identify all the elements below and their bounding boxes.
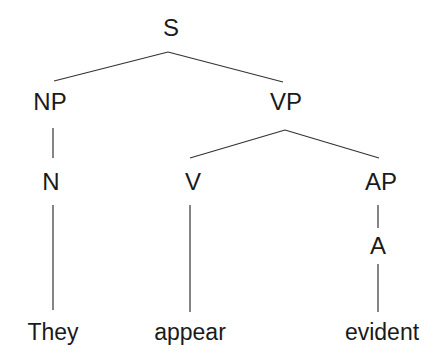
leaf-evident: evident xyxy=(345,321,419,344)
node-v: V xyxy=(185,170,201,194)
edge-vp-ap xyxy=(285,130,379,158)
leaf-they: They xyxy=(27,321,78,344)
leaf-appear: appear xyxy=(154,321,226,344)
node-vp: VP xyxy=(270,90,302,114)
syntax-tree-diagram: S NP VP N V AP A They appear evident xyxy=(0,0,448,364)
node-n: N xyxy=(42,170,59,194)
node-s: S xyxy=(163,16,179,40)
edge-s-vp xyxy=(168,52,283,82)
node-np: NP xyxy=(33,90,66,114)
node-ap: AP xyxy=(365,170,397,194)
node-a: A xyxy=(370,234,386,258)
edge-vp-v xyxy=(190,130,285,158)
edge-s-np xyxy=(54,52,168,81)
